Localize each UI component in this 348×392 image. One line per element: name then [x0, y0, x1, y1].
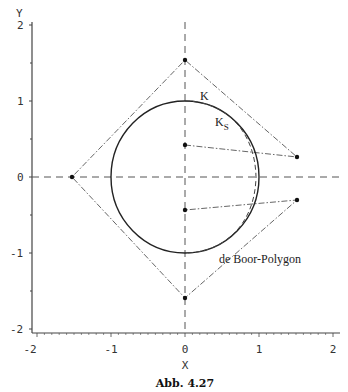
axes — [32, 22, 340, 333]
x-tick-label: 2 — [330, 343, 337, 356]
y-tick-label: 2 — [17, 19, 24, 32]
chart-figure: 2 1 0 -1 -2 -2 -1 0 1 2 Y X K KS de Boor… — [0, 0, 348, 392]
y-axis-title: Y — [16, 7, 23, 20]
y-tick-label: 0 — [17, 171, 24, 184]
x-axis-title: X — [182, 359, 189, 372]
y-tick-label: -1 — [10, 247, 23, 260]
y-tick-label: 1 — [17, 95, 24, 108]
control-point — [183, 208, 187, 212]
x-tick-label: 0 — [182, 343, 189, 356]
x-tick-label: -2 — [23, 343, 36, 356]
x-tick-label: -1 — [104, 343, 117, 356]
label-k: K — [200, 89, 209, 103]
control-point — [183, 58, 187, 62]
y-tick-label: -2 — [10, 323, 23, 336]
control-point — [70, 175, 74, 179]
control-point — [183, 296, 187, 300]
control-point — [295, 155, 299, 159]
figure-caption: Abb. 4.27 — [155, 377, 214, 390]
control-point — [295, 198, 299, 202]
x-ticks — [37, 333, 333, 337]
x-tick-label: 1 — [256, 343, 263, 356]
label-ks: KS — [215, 115, 229, 132]
control-point — [183, 143, 187, 147]
label-de-boor-polygon: de Boor-Polygon — [219, 252, 301, 266]
